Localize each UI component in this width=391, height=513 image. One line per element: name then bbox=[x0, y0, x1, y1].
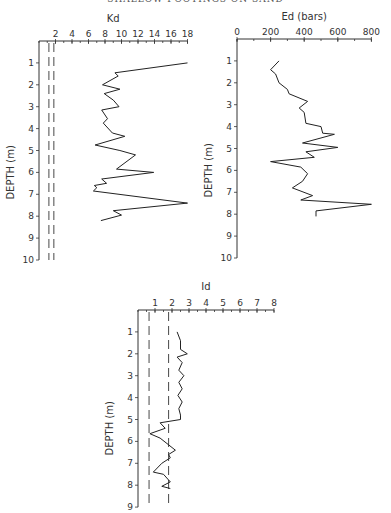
y-tick-label: 1 bbox=[127, 327, 133, 337]
x-tick-label: 600 bbox=[329, 27, 346, 37]
series-line-ed bbox=[271, 61, 372, 217]
x-tick-label: 2 bbox=[169, 298, 175, 308]
x-tick-label: 7 bbox=[254, 298, 260, 308]
chart-title: Ed (bars) bbox=[281, 11, 327, 22]
y-tick-label: 2 bbox=[127, 349, 133, 359]
y-tick-label: 2 bbox=[226, 78, 232, 88]
chart-kd: Kd2468101214161812345678910DEPTH (m) bbox=[5, 13, 193, 265]
y-tick-label: 7 bbox=[28, 189, 34, 199]
y-tick-label: 6 bbox=[127, 436, 133, 446]
y-tick-label: 4 bbox=[226, 122, 232, 132]
x-tick-label: 0 bbox=[234, 27, 240, 37]
x-tick-label: 2 bbox=[53, 29, 59, 39]
x-tick-label: 6 bbox=[237, 298, 243, 308]
y-tick-label: 6 bbox=[226, 165, 232, 175]
chart-title: Id bbox=[201, 281, 210, 292]
x-tick-label: 6 bbox=[86, 29, 92, 39]
x-tick-label: 5 bbox=[220, 298, 226, 308]
y-tick-label: 4 bbox=[28, 124, 34, 134]
y-tick-label: 9 bbox=[226, 231, 232, 241]
y-tick-label: 10 bbox=[23, 255, 35, 265]
x-tick-label: 16 bbox=[165, 29, 177, 39]
x-tick-label: 8 bbox=[102, 29, 108, 39]
y-tick-label: 1 bbox=[28, 58, 34, 68]
x-tick-label: 18 bbox=[182, 29, 194, 39]
y-tick-label: 8 bbox=[226, 209, 232, 219]
x-tick-label: 14 bbox=[149, 29, 161, 39]
x-tick-label: 200 bbox=[262, 27, 279, 37]
charts-canvas: Kd2468101214161812345678910DEPTH (m)Ed (… bbox=[0, 0, 391, 513]
chart-id: Id12345678123456789DEPTH (m) bbox=[104, 281, 277, 512]
y-axis-label: DEPTH (m) bbox=[104, 401, 115, 455]
y-tick-label: 2 bbox=[28, 80, 34, 90]
chart-ed: Ed (bars)020040060080012345678910DEPTH (… bbox=[203, 11, 380, 263]
y-axis-label: DEPTH (m) bbox=[5, 145, 16, 199]
y-tick-label: 9 bbox=[28, 233, 34, 243]
x-tick-label: 400 bbox=[296, 27, 313, 37]
y-tick-label: 10 bbox=[221, 253, 233, 263]
x-tick-label: 10 bbox=[116, 29, 128, 39]
x-tick-label: 1 bbox=[152, 298, 158, 308]
series-line-kd bbox=[93, 63, 187, 221]
y-tick-label: 6 bbox=[28, 167, 34, 177]
y-tick-label: 5 bbox=[28, 146, 34, 156]
y-tick-label: 3 bbox=[28, 102, 34, 112]
y-tick-label: 8 bbox=[127, 480, 133, 490]
y-tick-label: 3 bbox=[127, 371, 133, 381]
y-axis-label: DEPTH (m) bbox=[203, 143, 214, 197]
x-tick-label: 8 bbox=[271, 298, 277, 308]
x-tick-label: 12 bbox=[132, 29, 143, 39]
y-tick-label: 9 bbox=[127, 502, 133, 512]
y-tick-label: 3 bbox=[226, 100, 232, 110]
y-tick-label: 1 bbox=[226, 56, 232, 66]
y-tick-label: 5 bbox=[226, 144, 232, 154]
chart-title: Kd bbox=[107, 13, 120, 24]
y-tick-label: 7 bbox=[127, 458, 133, 468]
y-tick-label: 5 bbox=[127, 415, 133, 425]
y-tick-label: 7 bbox=[226, 187, 232, 197]
x-tick-label: 3 bbox=[186, 298, 192, 308]
y-tick-label: 4 bbox=[127, 393, 133, 403]
x-tick-label: 4 bbox=[203, 298, 209, 308]
x-tick-label: 4 bbox=[69, 29, 75, 39]
x-tick-label: 800 bbox=[363, 27, 380, 37]
y-tick-label: 8 bbox=[28, 211, 34, 221]
